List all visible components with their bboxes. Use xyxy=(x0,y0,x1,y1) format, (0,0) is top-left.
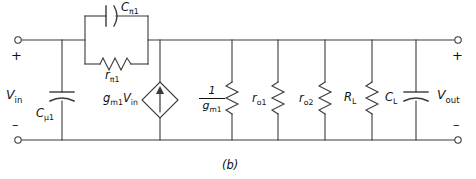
input-terminal-bottom xyxy=(15,137,21,143)
input-minus-sign: – xyxy=(12,118,19,131)
inv-gm1-label: 1 gm1 xyxy=(199,85,225,114)
ro2-label: ro2 xyxy=(299,93,314,107)
invgm1-zigzag xyxy=(226,82,238,114)
circuit-diagram-figure: + – Vin + – Vout Cπ1 rπ1 Cμ1 gm1Vin 1 gm… xyxy=(0,0,476,179)
ro2-zigzag xyxy=(319,82,331,114)
figure-caption: (b) xyxy=(222,158,238,172)
inv-gm1-numerator: 1 xyxy=(199,85,225,97)
output-voltage-label: Vout xyxy=(437,89,459,104)
output-plus-sign: + xyxy=(452,49,463,62)
rpi1-label: rπ1 xyxy=(105,70,119,84)
input-terminal-top xyxy=(15,37,21,43)
input-voltage-label: Vin xyxy=(6,89,22,104)
output-terminal-bottom xyxy=(455,137,461,143)
inv-gm1-denominator: gm1 xyxy=(199,100,225,114)
gm1-arrow-head xyxy=(156,86,164,94)
output-terminal-top xyxy=(455,37,461,43)
cl-label: CL xyxy=(385,92,397,106)
cmu1-label: Cμ1 xyxy=(36,108,54,122)
ro1-label: ro1 xyxy=(252,93,267,107)
ro1-zigzag xyxy=(272,82,284,114)
circuit-schematic-canvas xyxy=(0,0,476,179)
gm1vin-label: gm1Vin xyxy=(103,93,138,107)
input-plus-sign: + xyxy=(11,49,22,62)
output-minus-sign: – xyxy=(453,118,460,131)
rl-label: RL xyxy=(344,92,356,106)
rl-zigzag xyxy=(366,82,378,114)
cpi1-label: Cπ1 xyxy=(121,2,139,16)
